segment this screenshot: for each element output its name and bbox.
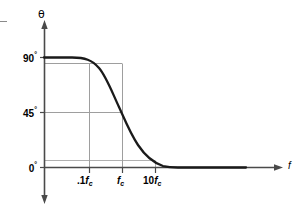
y-axis-arrow-down <box>41 195 47 204</box>
x-axis-ticks <box>90 168 156 173</box>
y-tick-value-90: 90 <box>23 53 34 64</box>
degree-symbol-0: ° <box>34 161 37 168</box>
x-tick-subscript-c-1: c <box>89 180 93 187</box>
x-tick-label-point1fc: .1fc <box>77 176 93 186</box>
y-tick-label-90deg: 90° <box>0 52 37 64</box>
y-tick-label-0deg: 0° <box>0 162 37 174</box>
x-axis-label: f <box>288 161 291 171</box>
y-tick-value-45: 45 <box>23 108 34 119</box>
x-tick-subscript-c-2: c <box>120 180 124 187</box>
y-axis-ticks <box>40 58 44 168</box>
degree-symbol-90: ° <box>34 51 37 58</box>
x-tick-prefix-10: 10 <box>143 175 154 186</box>
x-tick-subscript-c-3: c <box>157 180 161 187</box>
phase-response-plot: θ f 90° 45° 0° .1fc fc 10fc <box>0 0 299 213</box>
y-axis-label: θ <box>38 9 45 20</box>
x-axis-arrow-right <box>274 164 283 170</box>
y-tick-label-45deg: 45° <box>0 107 37 119</box>
x-tick-label-10fc: 10fc <box>143 176 161 186</box>
degree-symbol-45: ° <box>34 106 37 113</box>
x-tick-label-fc: fc <box>117 176 124 186</box>
y-axis-arrow-up <box>41 20 47 29</box>
